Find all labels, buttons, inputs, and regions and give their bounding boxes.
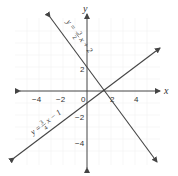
x-tick-neg2: −2 [56,95,66,104]
x-tick-0: 0 [81,95,86,104]
line-y-neg3-2x-plus-2 [50,17,157,162]
y-tick-neg4: −4 [75,139,85,148]
y-axis-label: y [82,3,88,14]
svg-text:2: 2 [71,34,78,40]
x-tick-4: 4 [134,95,139,104]
coordinate-graph: x y −4 −2 0 2 4 2 −2 −4 y = − 3 2 x + 2 … [0,0,178,176]
line1-equation-label: y = − 3 2 x + 2 [61,16,95,56]
svg-text:x + 2: x + 2 [77,35,95,55]
x-axis-label: x [163,85,169,96]
y-tick-2: 2 [80,65,85,74]
svg-text:4: 4 [43,125,49,132]
line2-equation-label: y = 3 4 x − 1 [27,107,64,140]
x-tick-neg4: −4 [32,95,42,104]
y-tick-neg2: −2 [75,113,85,122]
